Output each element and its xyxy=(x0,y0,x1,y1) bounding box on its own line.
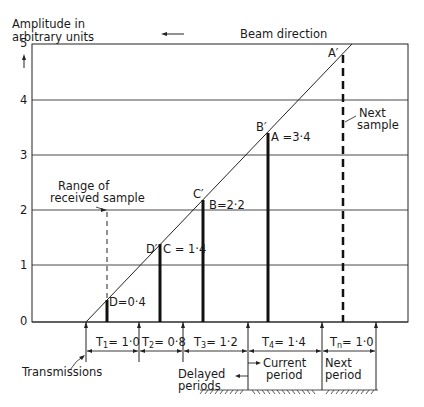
beam-direction-arrow-icon xyxy=(161,32,184,36)
sample-c-label: C = 1·4 xyxy=(163,243,206,256)
sample-b-label: B=2·2 xyxy=(209,199,245,212)
hatched-ground xyxy=(200,390,378,394)
delayed-periods-line2: periods xyxy=(178,380,221,393)
y-axis-arrow-icon xyxy=(22,54,26,68)
transmissions-label: Transmissions xyxy=(22,366,102,379)
y-tick-1: 1 xyxy=(20,259,27,272)
current-period-line2: period xyxy=(266,369,303,382)
sample-bars xyxy=(107,133,268,322)
range-label-line2: received sample xyxy=(50,192,145,205)
next-period-line2: period xyxy=(325,369,362,382)
period-t2-label: T2= 0·8 xyxy=(142,336,186,352)
period-t3-label: T3= 1·2 xyxy=(194,336,238,352)
sample-c-prime: C′ xyxy=(193,188,204,201)
sample-d-prime: D′ xyxy=(146,243,157,256)
y-tick-2: 2 xyxy=(20,204,27,217)
sample-d-label: D=0·4 xyxy=(109,296,146,309)
next-sample-label-line2: sample xyxy=(357,119,399,132)
period-t1-label: T1= 1·0 xyxy=(96,336,140,352)
beam-diagonal xyxy=(86,44,352,322)
y-tick-5: 5 xyxy=(20,37,27,50)
period-t4-label: T4= 1·4 xyxy=(262,336,306,352)
period-tn-label: Tn= 1·0 xyxy=(330,336,374,352)
y-tick-3: 3 xyxy=(20,149,27,162)
beam-direction-label: Beam direction xyxy=(240,28,327,41)
sample-b-prime: B′ xyxy=(256,121,267,134)
sample-a-label: A =3·4 xyxy=(271,131,310,144)
y-tick-4: 4 xyxy=(20,94,27,107)
y-tick-0: 0 xyxy=(20,315,27,328)
sample-a-prime: A′ xyxy=(328,47,338,60)
